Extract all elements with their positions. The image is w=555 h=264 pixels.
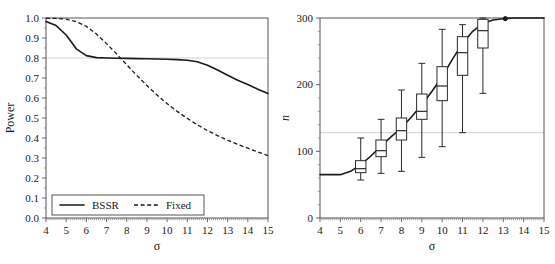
x-tick-label: 4	[43, 224, 49, 236]
x-tick-label: 7	[104, 224, 110, 236]
curve-fixed	[46, 18, 268, 155]
power-vs-sigma-chart: 0.00.10.20.30.40.50.60.70.80.91.04567891…	[0, 0, 278, 264]
boxplot-sigma-12	[478, 18, 488, 93]
x-tick-label: 10	[437, 224, 449, 236]
legend-label-bssr: BSSR	[92, 199, 120, 211]
x-axis-title: σ	[154, 239, 161, 253]
boxplot-sigma-9	[417, 63, 427, 157]
box-iqr	[356, 161, 366, 173]
y-tick-label: 0.3	[25, 152, 39, 164]
box-iqr	[457, 37, 467, 76]
y-tick-label: 1.0	[25, 12, 39, 24]
data-marker	[503, 17, 507, 21]
x-tick-label: 10	[162, 224, 174, 236]
x-tick-label: 8	[124, 224, 130, 236]
box-iqr	[396, 118, 406, 140]
x-tick-label: 7	[378, 224, 384, 236]
y-tick-label: 0.2	[25, 172, 39, 184]
y-tick-label: 0.4	[25, 132, 39, 144]
x-tick-label: 4	[317, 224, 323, 236]
y-tick-label: 0.5	[25, 112, 39, 124]
boxplot-sigma-8	[396, 90, 406, 171]
x-axis-title: σ	[429, 239, 436, 253]
y-axis-title: n	[278, 115, 292, 121]
x-tick-label: 13	[222, 224, 234, 236]
x-tick-label: 5	[338, 224, 344, 236]
y-tick-label: 0	[308, 212, 314, 224]
x-tick-label: 14	[518, 224, 530, 236]
x-tick-label: 9	[144, 224, 150, 236]
chart-panel-power: 0.00.10.20.30.40.50.60.70.80.91.04567891…	[0, 0, 278, 264]
x-tick-label: 15	[539, 224, 551, 236]
y-tick-label: 0.7	[25, 72, 39, 84]
legend-label-fixed: Fixed	[166, 199, 192, 211]
plot-frame	[320, 18, 544, 218]
y-tick-label: 0.0	[25, 212, 39, 224]
x-tick-label: 11	[182, 224, 193, 236]
samplesize-vs-sigma-chart: 0100200300456789101112131415σn	[278, 0, 555, 264]
x-tick-label: 6	[84, 224, 90, 236]
chart-panel-samplesize: 0100200300456789101112131415σn	[278, 0, 555, 264]
boxplot-sigma-10	[437, 29, 447, 146]
x-tick-label: 12	[202, 224, 213, 236]
y-tick-label: 0.8	[25, 52, 39, 64]
x-tick-label: 13	[498, 224, 510, 236]
box-iqr	[478, 19, 488, 48]
figure-container: 0.00.10.20.30.40.50.60.70.80.91.04567891…	[0, 0, 555, 264]
boxplot-sigma-7	[376, 119, 386, 173]
y-tick-label: 100	[297, 145, 314, 157]
x-tick-label: 8	[399, 224, 405, 236]
x-tick-label: 15	[263, 224, 275, 236]
x-tick-label: 14	[242, 224, 254, 236]
box-iqr	[417, 94, 427, 119]
x-tick-label: 9	[419, 224, 425, 236]
y-axis-title: Power	[3, 103, 17, 134]
curve-mean-n	[320, 18, 544, 175]
curve-bssr	[46, 21, 268, 93]
y-tick-label: 300	[297, 12, 314, 24]
x-tick-label: 5	[63, 224, 69, 236]
y-tick-label: 200	[297, 78, 314, 90]
x-tick-label: 11	[457, 224, 468, 236]
y-tick-label: 0.1	[25, 192, 39, 204]
x-tick-label: 12	[477, 224, 488, 236]
y-tick-label: 0.6	[25, 92, 39, 104]
boxplot-sigma-6	[356, 138, 366, 180]
boxplot-sigma-11	[457, 25, 467, 133]
plot-frame	[46, 18, 268, 218]
y-tick-label: 0.9	[25, 32, 39, 44]
x-tick-label: 6	[358, 224, 364, 236]
box-iqr	[437, 67, 447, 101]
box-iqr	[376, 140, 386, 157]
